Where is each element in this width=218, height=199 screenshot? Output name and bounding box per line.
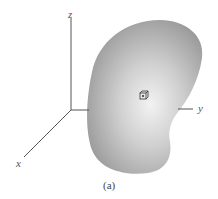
x-axis-label: x (16, 157, 21, 169)
x-axis (24, 110, 71, 157)
y-axis-label: y (198, 102, 203, 114)
z-axis-label: z (68, 8, 72, 20)
figure-canvas (0, 0, 218, 199)
figure-caption: (a) (103, 179, 115, 191)
